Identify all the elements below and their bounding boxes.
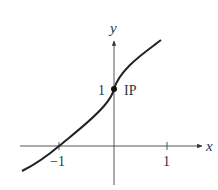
x-axis-label: x — [205, 138, 213, 154]
y-tick-label-1: 1 — [98, 83, 105, 98]
x-tick-label-pos1: 1 — [163, 154, 170, 169]
function-curve — [22, 40, 161, 171]
inflection-point-label: IP — [124, 83, 137, 98]
function-graph: y x −1 1 1 IP — [0, 0, 218, 190]
x-tick-label-neg1: −1 — [50, 154, 65, 169]
inflection-point-marker — [111, 86, 117, 92]
y-axis-label: y — [108, 20, 117, 36]
